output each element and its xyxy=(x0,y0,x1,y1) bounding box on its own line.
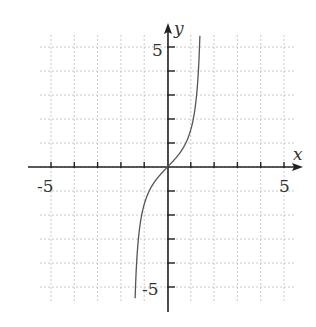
y-axis-label: y xyxy=(173,18,184,38)
x-axis-label: x xyxy=(293,144,303,164)
axes xyxy=(28,23,303,312)
y-tick-label-pos5: 5 xyxy=(152,40,163,60)
x-tick-label-neg5: -5 xyxy=(37,176,54,196)
y-tick-label-neg5: -5 xyxy=(142,279,159,299)
chart-canvas: x y -5 5 5 -5 xyxy=(0,0,316,327)
x-tick-label-pos5: 5 xyxy=(279,176,290,196)
